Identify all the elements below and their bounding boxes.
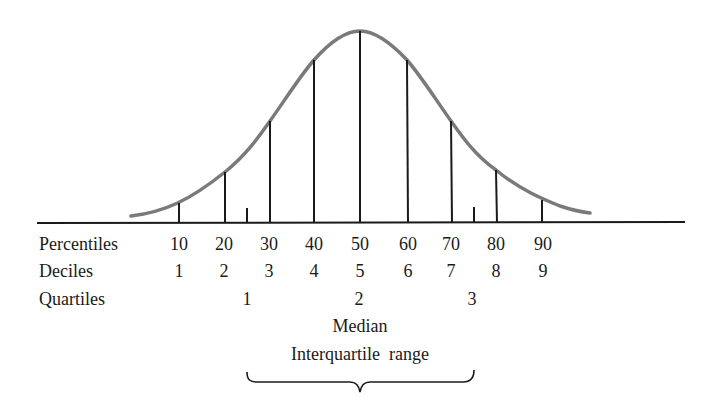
decile-value: 9 [539, 261, 548, 281]
decile-value: 8 [492, 261, 501, 281]
decile-value: 3 [265, 261, 274, 281]
percentile-value: 40 [305, 234, 323, 254]
deciles-label: Deciles [39, 261, 93, 281]
quartile-value: 2 [355, 289, 364, 309]
decile-value: 6 [404, 261, 413, 281]
percentile-value: 60 [399, 234, 417, 254]
decile-value: 5 [356, 261, 365, 281]
marker-p70 [451, 121, 452, 223]
marker-p80 [496, 170, 497, 223]
percentile-value: 20 [215, 234, 233, 254]
marker-p60 [407, 60, 408, 223]
quartile-value: 1 [243, 289, 252, 309]
percentile-markers [179, 31, 542, 223]
percentile-value: 10 [170, 234, 188, 254]
interquartile-brace [247, 370, 474, 392]
quartiles-label: Quartiles [39, 289, 105, 309]
decile-value: 4 [310, 261, 319, 281]
percentile-value: 70 [442, 234, 460, 254]
percentiles-label: Percentiles [39, 234, 118, 254]
decile-value: 2 [220, 261, 229, 281]
quartile-value: 3 [468, 289, 477, 309]
percentile-value: 50 [351, 234, 369, 254]
percentile-value: 30 [260, 234, 278, 254]
interquartile-range-annotation: Interquartile range [291, 344, 429, 364]
decile-value: 7 [447, 261, 456, 281]
percentile-value: 90 [534, 234, 552, 254]
median-annotation: Median [333, 316, 388, 336]
decile-value: 1 [175, 261, 184, 281]
percentile-value: 80 [487, 234, 505, 254]
